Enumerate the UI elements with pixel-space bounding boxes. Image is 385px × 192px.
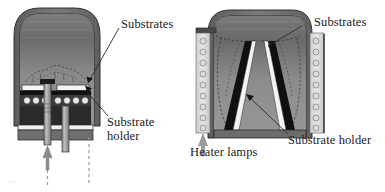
baseplate-strip [18, 125, 93, 130]
left-panel-pancake-reactor [14, 8, 119, 186]
gas-inlet-port [196, 28, 216, 33]
lamp-column-right [310, 33, 324, 133]
label-substrate-holder-left-line2: holder [107, 130, 140, 143]
heater-lamp [200, 38, 206, 44]
lamp-column-left [196, 33, 210, 133]
heater-lamp [313, 38, 319, 44]
heater-lamp [200, 125, 206, 131]
label-heater-lamps: Heater lamps [190, 146, 258, 159]
heater-lamp [313, 49, 319, 55]
heater-lamp [313, 104, 319, 110]
heater-lamp-row [24, 97, 88, 103]
lower-chamber-block [20, 106, 91, 125]
heater-lamp [200, 71, 206, 77]
label-substrates-left: Substrates [121, 18, 173, 31]
heater-lamp [313, 115, 319, 121]
heater-lamp [200, 93, 206, 99]
heater-lamp [313, 125, 319, 131]
heater-lamp [200, 115, 206, 121]
figure-cvd-reactors: Substrates Substrate holder Substrates S… [0, 0, 385, 192]
lower-chamber-skirt [18, 130, 93, 140]
center-support-tube [44, 83, 51, 145]
label-substrate-holder-right: Substrate holder [288, 134, 371, 147]
label-substrate-holder-left-line1: Substrate [107, 116, 154, 129]
substrate-strip-right [57, 85, 89, 91]
heater-lamp [200, 104, 206, 110]
heater-lamp [313, 71, 319, 77]
heater-lamp [313, 82, 319, 88]
susceptor-bar [20, 91, 91, 96]
gas-flow-arrow [43, 146, 52, 186]
heater-lamp [313, 60, 319, 66]
heater-lamp [200, 49, 206, 55]
heater-lamp [200, 60, 206, 66]
heater-lamp [200, 82, 206, 88]
label-substrates-right: Substrates [314, 16, 366, 29]
gas-inlet-tube [62, 106, 69, 152]
heater-lamp [313, 93, 319, 99]
center-support-cap [40, 79, 55, 84]
